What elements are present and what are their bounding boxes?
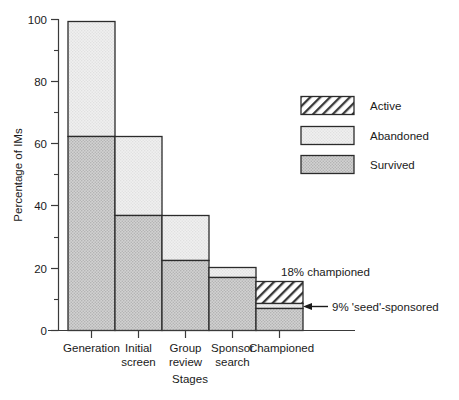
- y-ticklabel-0: 0: [41, 325, 47, 337]
- x-label-group-review-line1: Group: [170, 342, 202, 354]
- bar-group-review-abandoned[interactable]: [162, 216, 209, 261]
- legend-swatch-survived[interactable]: [301, 156, 354, 174]
- bar-generation-abandoned[interactable]: [68, 22, 115, 137]
- legend: Active Abandoned Survived: [301, 97, 429, 174]
- bar-initial-screen-abandoned[interactable]: [115, 137, 162, 216]
- y-ticklabel-80: 80: [34, 76, 47, 88]
- x-label-initial-screen-line2: screen: [121, 356, 156, 368]
- bar-generation-survived[interactable]: [68, 137, 115, 331]
- bar-sponsor-search-survived[interactable]: [209, 278, 256, 331]
- y-ticklabel-60: 60: [34, 138, 47, 150]
- y-axis: 100 80 60 40 20 0 Percentage of IMs: [12, 14, 59, 337]
- bar-group-review-survived[interactable]: [162, 261, 209, 331]
- bar-sponsor-search-abandoned[interactable]: [209, 268, 256, 278]
- x-label-championed: Championed: [249, 342, 314, 354]
- bar-group-review[interactable]: [162, 216, 209, 331]
- legend-label-active: Active: [370, 100, 401, 112]
- legend-swatch-abandoned[interactable]: [301, 127, 354, 145]
- annotation-seed-sponsored-text: 9% 'seed'-sponsored: [332, 301, 439, 313]
- x-label-generation: Generation: [63, 342, 120, 354]
- x-label-initial-screen-line1: Initial: [125, 342, 152, 354]
- bar-championed[interactable]: [256, 282, 303, 331]
- annotation-arrow-head-icon: [303, 303, 312, 310]
- x-axis-label: Stages: [172, 373, 208, 385]
- bar-initial-screen-survived[interactable]: [115, 216, 162, 331]
- legend-swatch-active[interactable]: [301, 97, 354, 115]
- x-label-sponsor-search-line2: search: [215, 356, 250, 368]
- bar-sponsor-search[interactable]: [209, 268, 256, 331]
- bar-chart-svg: 100 80 60 40 20 0 Percentage of IMs: [0, 0, 459, 400]
- x-label-group-review-line2: review: [169, 356, 203, 368]
- y-ticklabel-20: 20: [34, 263, 47, 275]
- legend-label-survived: Survived: [370, 159, 415, 171]
- chart-figure: 100 80 60 40 20 0 Percentage of IMs: [0, 0, 459, 400]
- annotation-seed-sponsored: 9% 'seed'-sponsored: [303, 301, 439, 313]
- annotation-championed: 18% championed: [281, 266, 370, 278]
- bar-championed-abandoned[interactable]: [256, 304, 303, 309]
- legend-item-active[interactable]: Active: [301, 97, 401, 115]
- legend-item-abandoned[interactable]: Abandoned: [301, 127, 429, 145]
- y-ticklabel-100: 100: [28, 14, 47, 26]
- y-ticklabel-40: 40: [34, 200, 47, 212]
- bar-generation[interactable]: [68, 22, 115, 331]
- bar-championed-active[interactable]: [256, 282, 303, 304]
- legend-item-survived[interactable]: Survived: [301, 156, 415, 174]
- legend-label-abandoned: Abandoned: [370, 130, 429, 142]
- annotation-championed-text: 18% championed: [281, 266, 370, 278]
- y-axis-label: Percentage of IMs: [12, 128, 24, 222]
- x-label-sponsor-search-line1: Sponsor: [211, 342, 254, 354]
- bar-championed-survived[interactable]: [256, 309, 303, 331]
- x-axis: Generation Initial screen Group review S…: [48, 331, 355, 386]
- bar-initial-screen[interactable]: [115, 137, 162, 331]
